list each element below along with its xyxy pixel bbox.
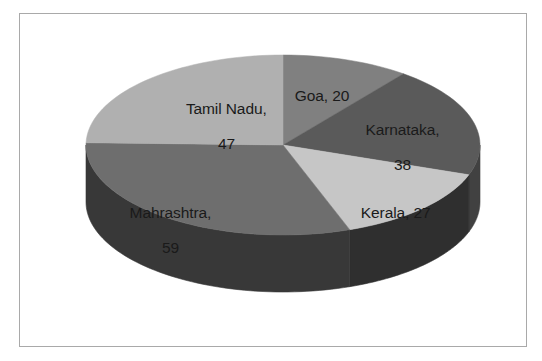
pie-chart-graphic — [0, 0, 542, 361]
pie-chart-figure: Goa, 20 Karnataka, 38 Kerala, 27 Mahrash… — [0, 0, 542, 361]
pie-slice-tamil-nadu — [86, 55, 283, 145]
pie-top-surface — [86, 55, 480, 235]
